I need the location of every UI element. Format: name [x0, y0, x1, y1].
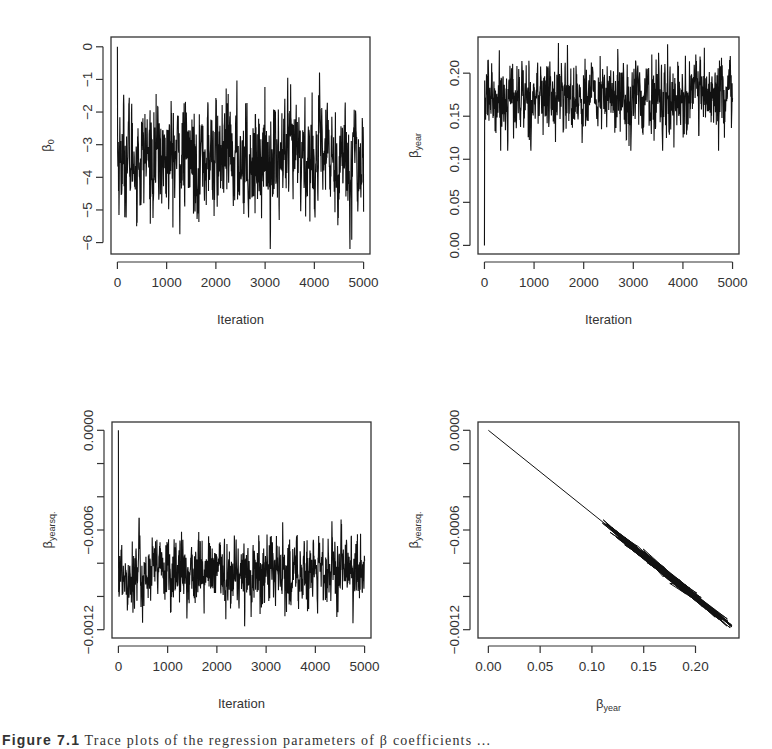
- y-tick-label: −0.0012: [81, 605, 96, 654]
- beta-year-vs-yearsq-scatter-plot: 0.000.050.100.150.200.0000−0.0006−0.0012…: [406, 410, 739, 713]
- x-tick-label: 2000: [202, 659, 232, 674]
- caption-label: Figure 7.1: [2, 732, 80, 748]
- x-tick-label: 0: [115, 659, 123, 674]
- x-tick-label: 1000: [519, 275, 549, 290]
- y-axis-label: βyearsq.: [406, 512, 423, 549]
- trace-line: [118, 430, 364, 626]
- x-tick-label: 0.00: [475, 659, 501, 674]
- x-tick-label: 0.20: [682, 659, 708, 674]
- x-axis-label: Iteration: [585, 312, 632, 327]
- y-tick-label: 0.00: [447, 232, 462, 258]
- x-tick-label: 1000: [152, 275, 182, 290]
- y-tick-label: −1: [80, 72, 95, 87]
- x-tick-label: 5000: [349, 275, 379, 290]
- y-tick-label: 0.20: [447, 60, 462, 86]
- x-tick-label: 3000: [250, 275, 280, 290]
- trace-line: [117, 47, 363, 249]
- y-tick-label: −0.0012: [447, 605, 462, 654]
- beta-yearsq-trace-plot: 0100020003000400050000.0000−0.0006−0.001…: [40, 410, 380, 711]
- y-tick-label: 0.0000: [447, 410, 462, 451]
- joint-trace-path: [488, 430, 731, 628]
- figure-caption: Figure 7.1 Trace plots of the regression…: [2, 732, 772, 749]
- y-tick-label: −4: [80, 169, 95, 185]
- y-tick-label: 0.05: [447, 189, 462, 215]
- y-tick-label: −3: [80, 137, 95, 152]
- y-tick-label: −2: [80, 104, 95, 119]
- x-axis-label: βyear: [596, 696, 621, 713]
- x-tick-label: 2000: [569, 275, 599, 290]
- x-tick-label: 2000: [201, 275, 231, 290]
- x-axis-label: Iteration: [217, 312, 264, 327]
- caption-text: Trace plots of the regression parameters…: [85, 733, 492, 748]
- x-tick-label: 0.15: [631, 659, 657, 674]
- x-tick-label: 3000: [251, 659, 281, 674]
- beta0-trace-plot: 0100020003000400050000−1−2−3−4−5−6Iterat…: [39, 37, 379, 327]
- y-tick-label: 0.0000: [81, 410, 96, 451]
- x-tick-label: 1000: [153, 659, 183, 674]
- y-tick-label: 0.10: [447, 146, 462, 172]
- x-axis-label: Iteration: [218, 696, 265, 711]
- x-tick-label: 3000: [618, 275, 648, 290]
- x-tick-label: 4000: [300, 659, 330, 674]
- y-axis-label: βyear: [406, 133, 423, 158]
- x-tick-label: 0: [114, 275, 122, 290]
- y-tick-label: −5: [80, 202, 95, 217]
- beta-year-trace-plot: 0100020003000400050000.000.050.100.150.2…: [406, 37, 748, 327]
- x-tick-label: 0.05: [527, 659, 553, 674]
- x-tick-label: 4000: [668, 275, 698, 290]
- y-axis-label: β0: [39, 139, 56, 152]
- y-axis-label: βyearsq.: [40, 512, 57, 549]
- x-tick-label: 0.10: [579, 659, 605, 674]
- trace-line: [484, 43, 732, 245]
- y-tick-label: −6: [80, 235, 95, 250]
- x-tick-label: 4000: [299, 275, 329, 290]
- plot-frame: [478, 422, 739, 638]
- x-tick-label: 5000: [718, 275, 748, 290]
- x-tick-label: 0: [481, 275, 489, 290]
- x-tick-label: 5000: [350, 659, 380, 674]
- y-tick-label: 0.15: [447, 103, 462, 129]
- y-tick-label: −0.0006: [447, 505, 462, 554]
- y-tick-label: −0.0006: [81, 505, 96, 554]
- y-tick-label: 0: [80, 43, 95, 51]
